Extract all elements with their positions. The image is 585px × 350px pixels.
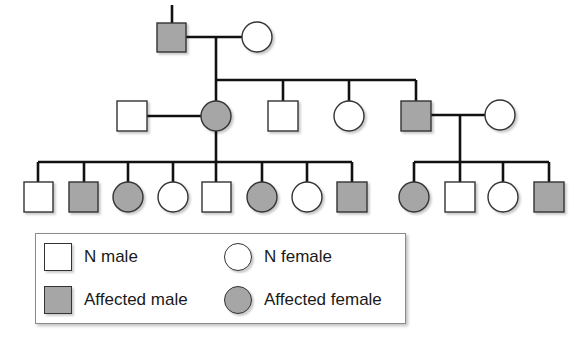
normal-female-spouse-gen2 — [485, 100, 515, 130]
normal-female-gen3 — [292, 182, 322, 212]
affected-female-gen3 — [247, 182, 277, 212]
affected-male-gen3 — [534, 182, 564, 212]
normal-male-gen3 — [445, 182, 475, 212]
normal-female-gen3 — [158, 182, 188, 212]
affected-female-gen2 — [201, 101, 231, 131]
legend-label: N male — [84, 247, 138, 267]
normal-male-gen2 — [268, 101, 298, 131]
normal-male-gen3 — [202, 182, 231, 212]
affected-male-gen1 — [157, 23, 186, 52]
legend-item-normal-female: N female — [224, 243, 332, 271]
affected-female-gen3 — [113, 182, 143, 212]
normal-male-gen3 — [24, 182, 53, 212]
legend-item-affected-female: Affected female — [224, 286, 382, 314]
affected-female-circle-icon — [224, 286, 252, 314]
normal-female-gen2 — [334, 101, 364, 131]
normal-female-gen3 — [488, 182, 518, 212]
legend-label: N female — [264, 247, 332, 267]
affected-male-gen3 — [69, 182, 98, 212]
normal-male-spouse-gen2 — [117, 101, 147, 131]
legend-label: Affected female — [264, 290, 382, 310]
affected-female-gen3 — [399, 182, 429, 212]
normal-female-gen1 — [242, 22, 272, 52]
pedigree-lines — [38, 5, 549, 182]
normal-male-square-icon — [44, 243, 72, 271]
affected-male-square-icon — [44, 286, 72, 314]
affected-male-gen3 — [337, 182, 367, 212]
legend-label: Affected male — [84, 290, 188, 310]
affected-male-gen2 — [401, 101, 431, 131]
normal-female-circle-icon — [224, 243, 252, 271]
legend-item-affected-male: Affected male — [44, 286, 188, 314]
legend: N male N female Affected male Affected f… — [35, 233, 406, 324]
legend-item-normal-male: N male — [44, 243, 138, 271]
